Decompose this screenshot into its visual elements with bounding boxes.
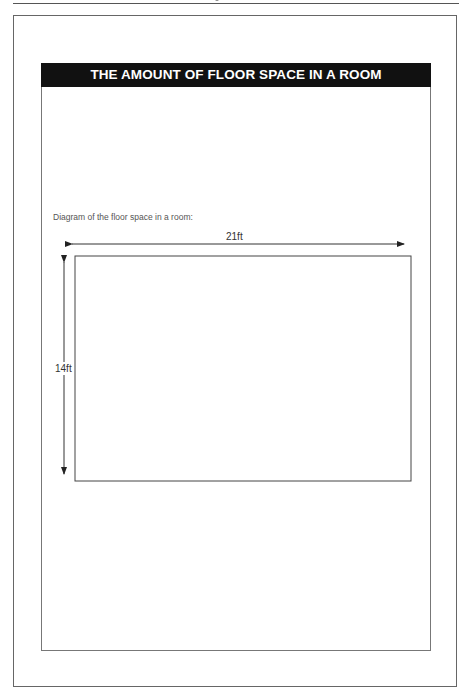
width-label: 21ft xyxy=(226,231,243,242)
room-rectangle xyxy=(75,256,411,481)
height-label: 14ft xyxy=(55,362,72,375)
floor-space-diagram xyxy=(0,0,462,696)
